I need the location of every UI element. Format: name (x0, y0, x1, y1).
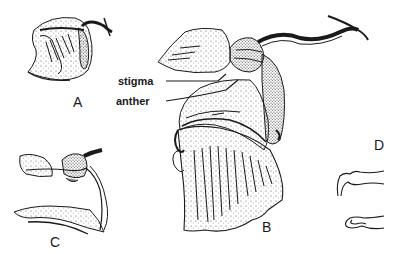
panel-label-a: A (73, 94, 83, 110)
panel-d-drawing (337, 171, 384, 229)
callout-stigma: stigma (118, 75, 154, 87)
panel-label-d: D (374, 137, 384, 153)
callout-anther: anther (116, 95, 150, 107)
stigma-leader-line (166, 74, 226, 81)
panel-b-drawing (158, 16, 368, 231)
panel-a-drawing (28, 18, 112, 81)
botanical-illustration: A stigma anther B (0, 0, 395, 254)
panel-label-c: C (50, 234, 60, 250)
panel-label-b: B (262, 219, 271, 235)
panel-c-drawing (14, 150, 108, 234)
